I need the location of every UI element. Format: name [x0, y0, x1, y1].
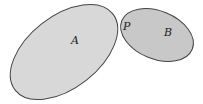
label-a: A	[70, 34, 79, 47]
label-p: P	[122, 20, 131, 33]
label-b: B	[163, 26, 172, 39]
region-a	[0, 0, 135, 104]
diagram-canvas: A B P	[0, 0, 203, 104]
region-b	[113, 0, 201, 71]
